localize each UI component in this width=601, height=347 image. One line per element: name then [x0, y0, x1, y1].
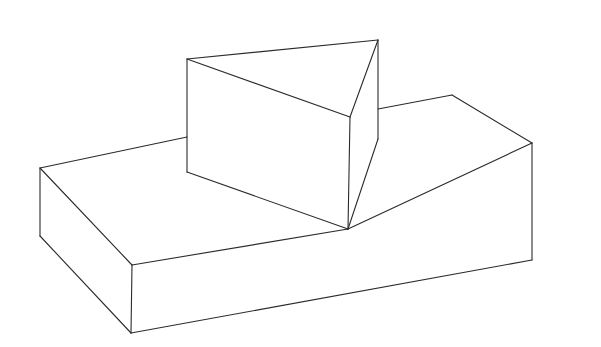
- triangular-prism: [187, 40, 378, 229]
- slab-edge: [378, 95, 452, 109]
- triangular-prism-edge: [348, 139, 378, 229]
- triangular-prism-edge: [350, 40, 378, 117]
- triangular-prism-edge: [187, 172, 348, 229]
- slab-edge: [452, 95, 532, 143]
- triangular-prism-edge: [187, 40, 378, 59]
- triangular-prism-edge: [348, 117, 350, 229]
- slab-edge: [132, 229, 348, 265]
- slab-edge: [131, 265, 132, 333]
- slab-edge: [40, 137, 187, 168]
- slab-edge: [348, 143, 532, 229]
- isometric-drawing: [0, 0, 601, 347]
- slab-edge: [40, 236, 131, 333]
- triangular-prism-edge: [187, 59, 350, 117]
- figure-canvas: [0, 0, 601, 347]
- slab-edge: [131, 260, 532, 333]
- slab: [40, 95, 532, 333]
